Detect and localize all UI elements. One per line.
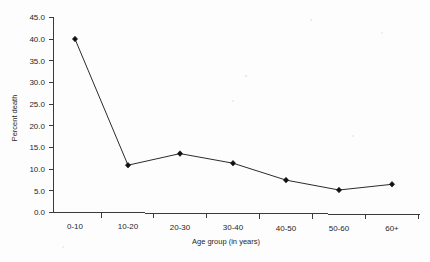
y-tick-label: 35.0 (29, 57, 45, 66)
scan-speck (352, 135, 354, 137)
x-tick-label: 10-20 (118, 222, 139, 231)
x-tick-label: 60+ (385, 224, 399, 233)
y-tick-label: 40.0 (29, 35, 45, 44)
y-tick-label: 45.0 (29, 13, 45, 22)
x-tick-label: 40-50 (276, 224, 297, 233)
scan-speck (310, 19, 312, 21)
chart-background (0, 0, 430, 262)
x-axis-title: Age group (in years) (192, 237, 260, 246)
y-tick-label: 0.0 (34, 208, 46, 217)
y-axis-title: Percent death (10, 95, 19, 142)
y-tick-label: 10.0 (29, 165, 45, 174)
x-tick-label: 50-60 (329, 224, 350, 233)
scan-speck (232, 100, 234, 102)
y-tick-label: 5.0 (34, 187, 46, 196)
chart-container: 0.0 5.0 10.0 15.0 20.0 25.0 30.0 35.0 40… (0, 0, 430, 262)
scan-speck (62, 246, 64, 248)
y-tick-label: 30.0 (29, 78, 45, 87)
scan-speck (381, 32, 383, 34)
line-chart: 0.0 5.0 10.0 15.0 20.0 25.0 30.0 35.0 40… (0, 0, 430, 262)
y-tick-label: 15.0 (29, 143, 45, 152)
x-tick-label: 20-30 (170, 223, 191, 232)
y-tick-label: 20.0 (29, 122, 45, 131)
x-tick-label: 0-10 (67, 222, 84, 231)
x-tick-label: 30-40 (223, 223, 244, 232)
y-tick-label: 25.0 (29, 100, 45, 109)
scan-speck (245, 75, 248, 78)
